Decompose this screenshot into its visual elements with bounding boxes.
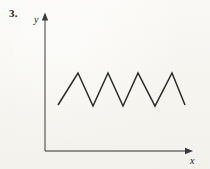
x-axis-label: x [189,155,195,166]
y-axis-arrowhead [42,13,48,21]
zigzag-curve [58,73,185,106]
graph-figure: y x [0,0,210,169]
y-axis-label: y [33,14,39,25]
x-axis-arrowhead [185,148,193,154]
figure-page: 3. y x [0,0,210,169]
